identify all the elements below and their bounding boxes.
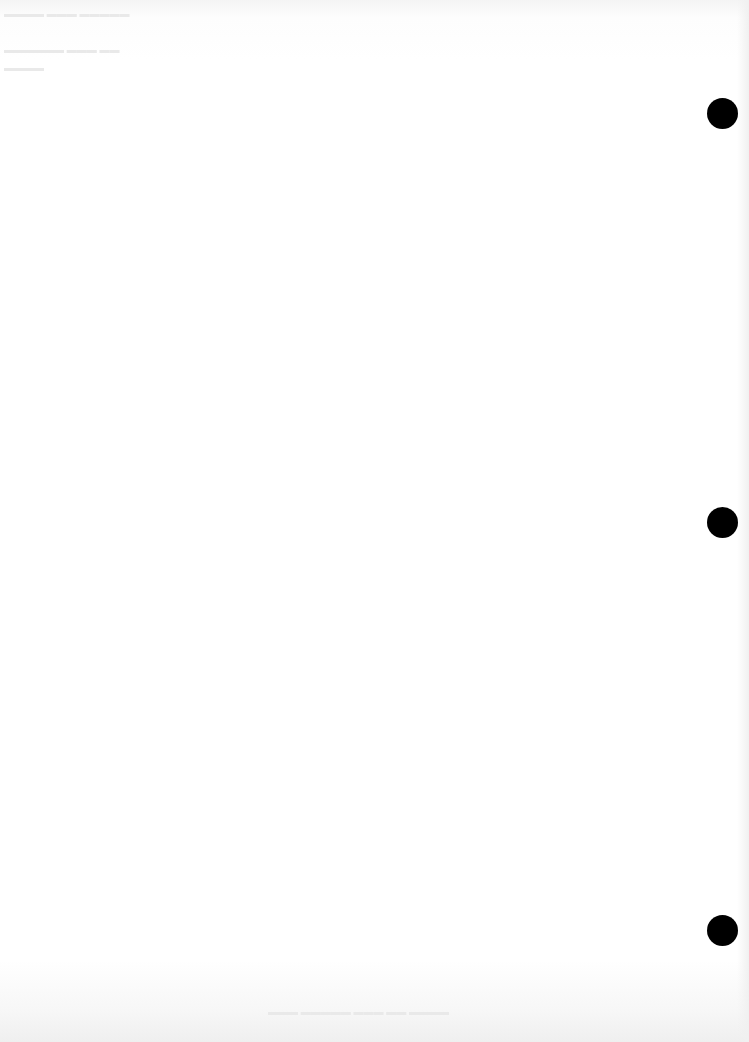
- scanned-page: ▬▬▬▬ ▬▬▬ ▬▬▬▬▬ ▬▬▬▬▬▬ ▬▬▬ ▬▬ ▬▬▬▬ ▬▬▬ ▬▬…: [0, 0, 749, 1042]
- bleed-through-text: ▬▬▬▬: [4, 62, 44, 73]
- bleed-through-text: ▬▬▬ ▬▬▬▬▬ ▬▬▬ ▬▬ ▬▬▬▬: [268, 1006, 449, 1017]
- punch-hole-bottom: [707, 915, 738, 946]
- bleed-through-text: ▬▬▬▬▬▬ ▬▬▬ ▬▬: [4, 44, 120, 55]
- punch-hole-top: [707, 98, 738, 129]
- punch-hole-middle: [707, 507, 738, 538]
- page-edge-shadow: [737, 0, 749, 1042]
- bleed-through-text: ▬▬▬▬ ▬▬▬ ▬▬▬▬▬: [4, 8, 130, 19]
